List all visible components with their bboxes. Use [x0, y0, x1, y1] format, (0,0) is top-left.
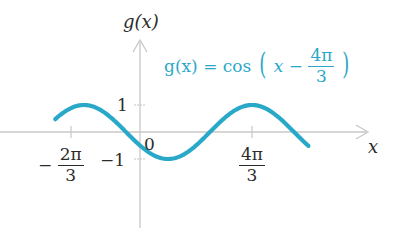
y-tick-label-neg-1: −1	[100, 152, 125, 169]
y-axis-label: g(x)	[123, 13, 159, 31]
plot-area	[0, 0, 402, 239]
x-axis-label: x	[368, 138, 378, 156]
y-axis-label-text: g(x)	[123, 11, 159, 32]
formula-fraction: 4π 3	[308, 47, 334, 86]
formula-open-paren: (	[259, 49, 266, 79]
origin-label: 0	[144, 136, 155, 153]
x-tick-label-neg-2pi-3: − 2π 3	[38, 146, 84, 185]
formula-close-paren: )	[342, 49, 349, 79]
formula-inner: x −	[274, 56, 303, 76]
y-tick-label-1: 1	[117, 97, 128, 114]
formula-lhs: g(x) = cos	[164, 56, 251, 76]
function-formula-legend: g(x) = cos ( x − 4π 3 )	[164, 47, 352, 86]
fraction-numerator: 2π	[58, 146, 84, 166]
formula-denominator: 3	[316, 67, 327, 86]
minus-sign: −	[38, 155, 52, 175]
fraction: 2π 3	[58, 146, 84, 185]
fraction-denominator: 3	[247, 166, 258, 185]
fraction: 4π 3	[239, 146, 265, 185]
formula-numerator: 4π	[308, 47, 334, 67]
fraction-denominator: 3	[65, 166, 76, 185]
x-tick-label-4pi-3: 4π 3	[239, 146, 265, 185]
fraction-numerator: 4π	[239, 146, 265, 166]
